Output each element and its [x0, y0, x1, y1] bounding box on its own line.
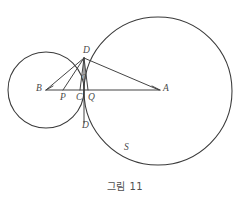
large-circle-S [84, 17, 232, 165]
figure-container: B P C Q A D D O S 그림 11 [0, 0, 250, 206]
label-A: A [163, 84, 169, 94]
segment-DA [84, 58, 159, 90]
label-C: C [76, 93, 82, 103]
label-O: O [81, 74, 86, 82]
label-D-prime: D [82, 121, 89, 131]
figure-caption: 그림 11 [0, 178, 250, 193]
segment-DB [46, 58, 84, 90]
label-B: B [36, 84, 42, 94]
label-S: S [124, 143, 129, 153]
label-Q: Q [88, 93, 95, 103]
label-P: P [60, 93, 66, 103]
geometry-drawing [0, 0, 250, 206]
label-D: D [83, 46, 90, 56]
